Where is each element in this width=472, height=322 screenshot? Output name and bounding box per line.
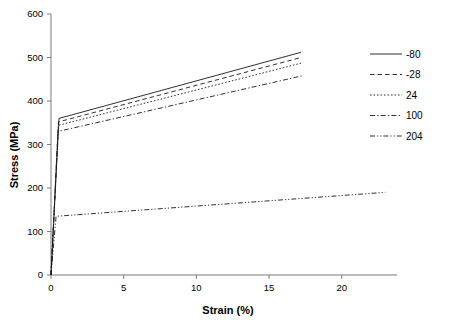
x-axis-tick-label: 20 — [336, 282, 347, 293]
y-axis-title: Stress (MPa) — [8, 121, 20, 188]
y-axis-tick-label: 500 — [27, 52, 43, 63]
legend-label: 24 — [406, 90, 418, 101]
x-axis-tick-label: 0 — [48, 282, 53, 293]
chart-canvas: 0100200300400500600 05101520 -80-2824100… — [0, 0, 472, 322]
x-axis-tick-label: 10 — [191, 282, 202, 293]
legend-label: 204 — [406, 131, 423, 142]
y-axis-tick-label: 200 — [27, 182, 43, 193]
y-axis-tick-label: 400 — [27, 95, 43, 106]
x-axis-tick-label: 15 — [264, 282, 275, 293]
legend-label: 100 — [406, 110, 423, 121]
y-axis-tick-label: 300 — [27, 139, 43, 150]
y-axis-tick-label: 600 — [27, 8, 43, 19]
x-axis-title: Strain (%) — [202, 304, 254, 316]
y-axis-tick-label: 0 — [38, 269, 43, 280]
y-axis-tick-label: 100 — [27, 226, 43, 237]
chart-background — [0, 0, 472, 322]
legend-label: -28 — [406, 69, 421, 80]
legend-label: -80 — [406, 49, 421, 60]
stress-strain-chart: 0100200300400500600 05101520 -80-2824100… — [0, 0, 472, 322]
x-axis-tick-label: 5 — [121, 282, 126, 293]
